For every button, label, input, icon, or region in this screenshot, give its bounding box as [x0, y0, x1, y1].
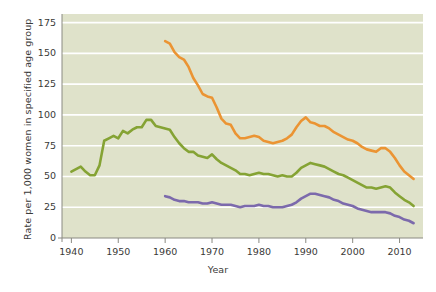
plot-area	[0, 0, 436, 292]
teen-birth-rate-line-chart: Rate per 1,000 women in specified age gr…	[0, 0, 436, 292]
plot-background	[62, 14, 423, 238]
